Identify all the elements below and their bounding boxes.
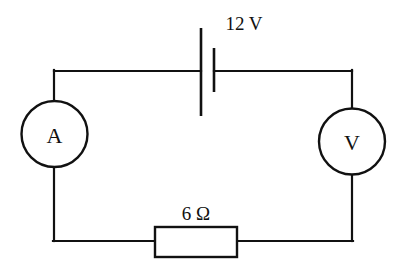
circuit-diagram: A V 12 V 6 Ω	[0, 0, 405, 269]
ammeter-label: A	[47, 123, 63, 148]
battery-value-label: 12 V	[225, 13, 262, 34]
ammeter-symbol: A	[22, 101, 88, 167]
voltmeter-symbol: V	[319, 109, 385, 175]
resistor-symbol	[155, 227, 237, 257]
circuit-svg-canvas: A V 12 V 6 Ω	[0, 0, 405, 269]
resistor-value-label: 6 Ω	[182, 203, 210, 224]
voltmeter-label: V	[344, 130, 360, 155]
battery-symbol	[201, 28, 214, 116]
resistor-box-icon	[155, 227, 237, 257]
